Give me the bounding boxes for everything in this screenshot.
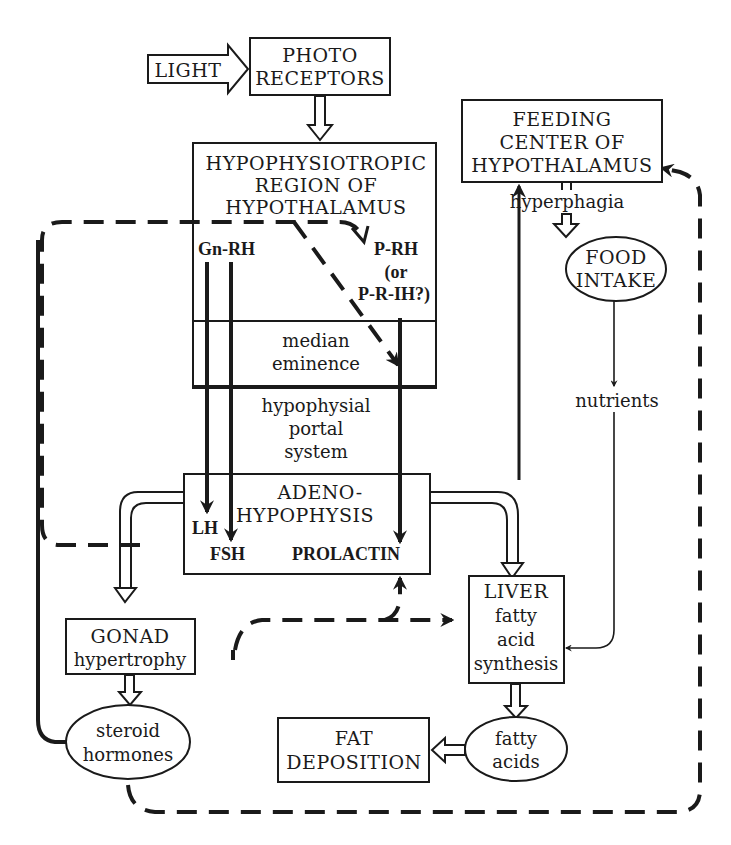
svg-text:FAT: FAT (335, 727, 373, 749)
svg-text:FEEDING: FEEDING (513, 108, 612, 130)
light-arrow: LIGHT (148, 45, 248, 93)
svg-text:P-R-IH?): P-R-IH?) (358, 284, 430, 305)
svg-text:RECEPTORS: RECEPTORS (255, 67, 384, 89)
feedback-steroid-to-prolactin (385, 578, 400, 620)
svg-text:acids: acids (492, 751, 539, 772)
fsh-label: FSH (210, 544, 245, 564)
svg-text:LIVER: LIVER (484, 580, 549, 602)
svg-text:system: system (284, 441, 348, 462)
feeding-center-node: FEEDING CENTER OF HYPOTHALAMUS (462, 100, 662, 182)
fatty-acids-node: fatty acids (465, 717, 567, 781)
svg-text:FOOD: FOOD (585, 246, 647, 268)
liver-node: LIVER fatty acid synthesis (469, 576, 564, 683)
svg-text:acid: acid (497, 629, 535, 650)
endocrine-feeding-diagram: LIGHT PHOTO RECEPTORS HYPOPHYSIOTROPIC R… (0, 0, 731, 845)
svg-text:DEPOSITION: DEPOSITION (286, 751, 421, 773)
feedback-steroid-to-liver (235, 620, 452, 650)
prolactin-label: PROLACTIN (292, 544, 400, 564)
svg-text:ADENO-: ADENO- (276, 481, 362, 503)
hyperphagia-arrow (554, 214, 578, 237)
gonad-node: GONAD hypertrophy (66, 619, 195, 674)
prh-label: P-RH (or P-R-IH?) (358, 239, 430, 305)
svg-text:hypophysial: hypophysial (262, 395, 371, 416)
svg-text:synthesis: synthesis (474, 653, 559, 674)
lh-label: LH (192, 518, 218, 538)
food-intake-node: FOOD INTAKE (566, 237, 666, 301)
svg-text:HYPOPHYSIS: HYPOPHYSIS (236, 504, 374, 526)
fatty-acids-to-fat-deposition-arrow (432, 738, 465, 762)
svg-text:HYPOTHALAMUS: HYPOTHALAMUS (225, 196, 406, 218)
svg-text:fatty: fatty (495, 605, 538, 626)
svg-text:PHOTO: PHOTO (282, 44, 358, 66)
photoreceptors-to-hypothalamus-arrow (308, 96, 332, 140)
svg-text:HYPOTHALAMUS: HYPOTHALAMUS (471, 154, 652, 176)
steroid-hormones-node: steroid hormones (66, 705, 190, 779)
svg-text:P-RH: P-RH (374, 239, 418, 259)
svg-text:portal: portal (289, 418, 344, 439)
svg-text:steroid: steroid (96, 720, 160, 741)
svg-text:REGION OF: REGION OF (255, 174, 377, 196)
svg-text:GONAD: GONAD (91, 625, 170, 647)
svg-text:fatty: fatty (495, 728, 538, 749)
gnrh-label: Gn-RH (198, 239, 255, 259)
adeno-to-liver-connector (430, 492, 518, 565)
svg-text:CENTER OF: CENTER OF (499, 131, 624, 153)
gonad-to-steroid-arrow (119, 675, 141, 705)
hyperphagia-label: hyperphagia (510, 191, 625, 212)
photoreceptors-node: PHOTO RECEPTORS (250, 38, 390, 95)
svg-text:(or: (or (385, 262, 408, 283)
liver-to-fatty-acids-arrow (505, 684, 527, 718)
fat-deposition-node: FAT DEPOSITION (278, 718, 429, 782)
adenohypophysis-node: ADENO- HYPOPHYSIS LH FSH PROLACTIN (184, 474, 430, 574)
nutrients-to-liver-arrow (566, 412, 614, 648)
portal-system-label: hypophysial portal system (262, 395, 371, 462)
light-label: LIGHT (154, 59, 221, 81)
svg-text:median: median (282, 330, 350, 351)
svg-text:HYPOPHYSIOTROPIC: HYPOPHYSIOTROPIC (206, 152, 427, 174)
svg-text:INTAKE: INTAKE (576, 269, 657, 291)
svg-text:hormones: hormones (83, 744, 173, 765)
svg-text:hypertrophy: hypertrophy (74, 649, 187, 670)
adeno-to-gonad-connector (120, 492, 184, 590)
nutrients-label: nutrients (575, 390, 659, 411)
svg-text:eminence: eminence (272, 353, 360, 374)
